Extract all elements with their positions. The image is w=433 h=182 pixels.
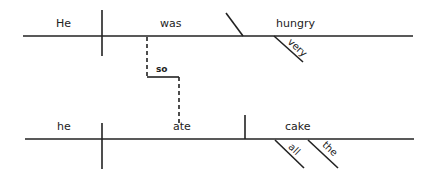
complement-divider — [226, 13, 243, 36]
word-complement: hungry — [276, 17, 315, 30]
word-verb-1: was — [160, 17, 181, 30]
word-subject-1: He — [56, 17, 71, 30]
word-connector: so — [156, 64, 168, 74]
word-verb-2: ate — [173, 120, 191, 133]
word-subject-2: he — [57, 120, 71, 133]
word-object: cake — [285, 120, 311, 133]
